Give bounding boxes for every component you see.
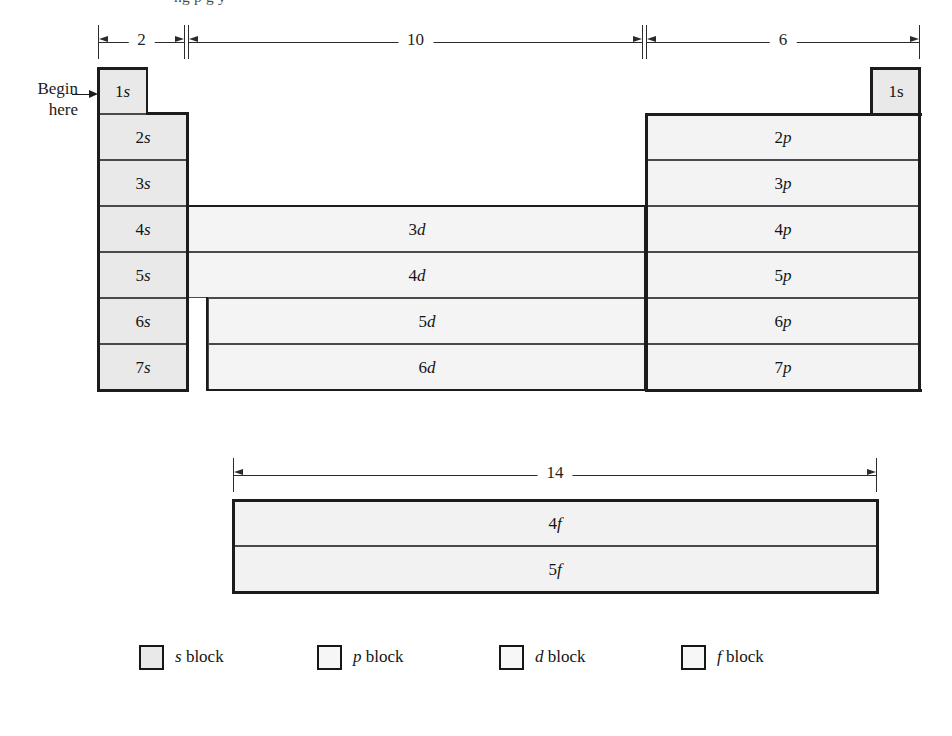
orbital-cell-label: 5d [419,313,436,330]
orbital-cell-label: 4d [409,267,426,284]
orbital-principal-number: 5 [135,266,144,285]
orbital-cell-2p: 2p [646,114,920,160]
orbital-principal-number: 4 [775,220,784,239]
cutoff-text-above: ng p g y [0,0,952,6]
d-block-top-edge [186,205,648,207]
orbital-cell-label: 6p [775,313,792,330]
orbital-principal-number: 5 [548,560,557,579]
orbital-cell-1s: 1s [872,68,920,114]
orbital-subshell-letter: d [417,220,426,239]
s-block-1s-right-edge [146,67,149,114]
orbital-cell-label: 7s [135,359,150,376]
legend-swatch-d-block [499,645,524,670]
legend-label-p-block: p block [353,647,404,667]
right-1s-top-edge [870,67,920,70]
orbital-principal-number: 6 [135,312,144,331]
orbital-cell-4f: 4f [233,500,877,546]
legend-block-word: block [362,647,404,666]
begin-here-label: Begin here [4,78,78,120]
orbital-principal-number: 5 [775,266,784,285]
orbital-cell-4p: 4p [646,206,920,252]
orbital-cell-label: 3s [135,175,150,192]
orbital-subshell-letter: s [144,220,151,239]
orbital-cell-4s: 4s [98,206,188,252]
s-block-bottom-edge [97,389,189,392]
orbital-subshell-letter: p [783,266,792,285]
dimension-f-block-width: 14 [233,464,877,486]
orbital-subshell-letter: s [144,128,151,147]
orbital-principal-number: 3 [409,220,418,239]
orbital-subshell-letter: p [783,128,792,147]
dimension-arrow-right-icon [867,469,876,475]
dimension-label: 14 [538,462,573,484]
legend-orbital-letter: p [353,647,362,666]
begin-here-arrow-icon [72,90,98,99]
orbital-subshell-letter: s [144,266,151,285]
orbital-subshell-letter: s [897,82,904,101]
p-block-bottom-edge [645,389,922,392]
orbital-principal-number: 4 [548,514,557,533]
dimension-arrow-left-icon [99,36,108,42]
orbital-cell-2s: 2s [98,114,188,160]
orbital-cell-label: 6d [419,359,436,376]
orbital-cell-label: 5f [548,561,561,578]
orbital-cell-1s: 1s [98,68,147,114]
orbital-subshell-letter: p [783,174,792,193]
orbital-cell-5d: 5d [208,298,646,344]
orbital-principal-number: 2 [775,128,784,147]
dimension-arrow-left-icon [189,36,198,42]
d-block-bottom-edge [206,389,646,391]
orbital-subshell-letter: d [417,266,426,285]
right-1s-left-edge [870,67,873,114]
d-block-lower-left-edge [206,297,208,391]
legend-label-d-block: d block [535,647,586,667]
orbital-cell-label: 7p [775,359,792,376]
legend: s blockp blockd blockf block [0,640,952,684]
orbital-subshell-letter: f [557,514,562,533]
s-block-1s-step [146,112,189,115]
orbital-principal-number: 6 [775,312,784,331]
orbital-principal-number: 7 [135,358,144,377]
orbital-subshell-letter: s [144,312,151,331]
orbital-cell-3s: 3s [98,160,188,206]
orbital-subshell-letter: s [144,358,151,377]
orbital-cell-label: 2s [135,129,150,146]
cutoff-text-content: ng p g y [0,0,952,6]
orbital-subshell-letter: s [123,82,130,101]
orbital-cell-4d: 4d [188,252,646,298]
legend-block-word: block [722,647,764,666]
orbital-principal-number: 4 [135,220,144,239]
legend-swatch-f-block [681,645,706,670]
orbital-cell-6d: 6d [208,344,646,390]
orbital-cell-5f: 5f [233,546,877,592]
legend-orbital-letter: s [175,647,182,666]
s-block-left-edge [97,67,100,392]
dimension-arrow-left-icon [647,36,656,42]
dimension-arrow-right-icon [633,36,642,42]
orbital-cell-label: 3p [775,175,792,192]
legend-block-word: block [544,647,586,666]
orbital-cell-label: 2p [775,129,792,146]
orbital-cell-label: 4p [775,221,792,238]
orbital-subshell-letter: p [783,312,792,331]
orbital-cell-label: 1s [115,83,130,100]
orbital-subshell-letter: d [427,358,436,377]
s-block-right-mid-edge [186,206,189,392]
orbital-cell-6s: 6s [98,298,188,344]
orbital-cell-6p: 6p [646,298,920,344]
orbital-cell-7p: 7p [646,344,920,390]
orbital-cell-3d: 3d [188,206,646,252]
orbital-subshell-letter: f [557,560,562,579]
orbital-principal-number: 3 [135,174,144,193]
orbital-principal-number: 3 [775,174,784,193]
legend-label-s-block: s block [175,647,224,667]
f-block-left-edge [232,499,235,594]
orbital-principal-number: 6 [419,358,428,377]
s-block-top-edge [97,67,148,70]
orbital-subshell-letter: p [783,358,792,377]
legend-swatch-p-block [317,645,342,670]
legend-item-d-block: d block [499,640,586,674]
orbital-cell-label: 4f [548,515,561,532]
orbital-subshell-letter: s [144,174,151,193]
orbital-cell-label: 5s [135,267,150,284]
